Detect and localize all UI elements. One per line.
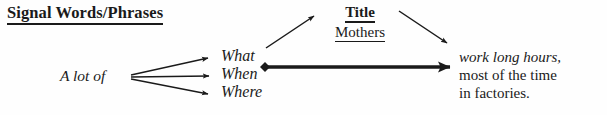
arrow-subject-to-when bbox=[131, 76, 209, 77]
arrow-title-to-predicate bbox=[399, 11, 447, 43]
predicate-block: work long hours, most of the time in fac… bbox=[459, 48, 561, 102]
title-block: Title Mothers bbox=[321, 3, 399, 42]
subject-phrase: A lot of bbox=[60, 68, 105, 84]
predicate-line-1: work long hours, bbox=[459, 48, 561, 66]
signal-word-when: When bbox=[221, 66, 257, 82]
arrow-what-to-title bbox=[266, 16, 314, 48]
arrow-subject-to-what bbox=[131, 58, 208, 75]
title-value: Mothers bbox=[335, 25, 385, 42]
heading-signal-words-phrases: Signal Words/Phrases bbox=[7, 5, 163, 25]
signal-word-where: Where bbox=[221, 84, 262, 100]
arrow-signal-to-predicate bbox=[260, 62, 450, 72]
arrow-subject-to-where bbox=[131, 79, 208, 94]
title-label: Title bbox=[345, 5, 375, 23]
predicate-line-2: most of the time bbox=[459, 66, 561, 84]
signal-word-what: What bbox=[221, 48, 255, 64]
predicate-line-3: in factories. bbox=[459, 84, 561, 102]
diagram-canvas: Signal Words/Phrases Title Mothers A lot… bbox=[0, 0, 607, 115]
